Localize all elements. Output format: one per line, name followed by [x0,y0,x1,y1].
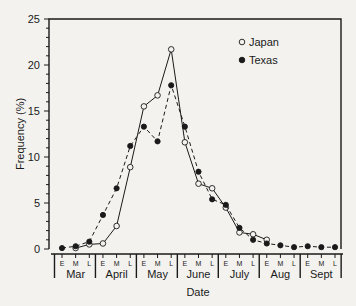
x-subperiod-label: E [223,260,228,267]
x-subperiod-label: M [114,260,120,267]
x-month-label: July [230,268,250,280]
line-chart: 0510152025 EMLEMLEMLEMLEMLEMLEMLMarApril… [0,0,356,306]
legend-label-texas: Texas [249,54,278,66]
data-point [319,245,324,250]
data-point [114,186,119,191]
data-point [100,212,105,217]
x-subperiod-label: M [237,260,243,267]
data-point [141,124,146,129]
data-point [127,164,133,170]
data-point [114,223,120,229]
data-point [100,241,106,247]
plot-frame [49,19,341,249]
x-month-label: Aug [271,268,291,280]
data-point [141,104,147,110]
x-subperiod-label: L [210,260,214,267]
y-tick-label: 10 [28,151,40,163]
y-axis-label: Frequency (%) [14,98,26,170]
data-point [223,202,228,207]
data-point [59,245,64,250]
x-subperiod-label: L [292,260,296,267]
x-month-label: June [187,268,211,280]
data-point [196,169,201,174]
x-subperiod-label: E [305,260,310,267]
data-point [291,245,296,250]
data-point [155,93,161,99]
data-point [196,181,202,187]
x-subperiod-label: M [277,260,283,267]
x-axis: EMLEMLEMLEMLEMLEMLEMLMarAprilMayJuneJuly… [51,254,343,280]
data-point [251,237,256,242]
y-tick-label: 15 [28,105,40,117]
data-point [210,197,215,202]
y-axis: 0510152025 [28,13,49,255]
data-point [209,185,215,191]
x-month-label: Sept [310,268,333,280]
legend-marker-texas [239,57,245,63]
x-subperiod-label: M [196,260,202,267]
data-point [278,243,283,248]
x-subperiod-label: L [251,260,255,267]
legend: JapanTexas [239,36,279,66]
series-japan [73,47,270,251]
x-subperiod-label: L [87,260,91,267]
x-subperiod-label: L [333,260,337,267]
data-point [182,139,188,145]
x-month-label: May [147,268,168,280]
x-subperiod-label: L [128,260,132,267]
x-subperiod-label: M [318,260,324,267]
data-point [250,231,256,237]
x-subperiod-label: E [142,260,147,267]
data-point [168,47,174,53]
data-point [155,139,160,144]
data-point [182,124,187,129]
y-tick-label: 5 [34,197,40,209]
data-point [128,143,133,148]
x-subperiod-label: E [101,260,106,267]
data-point [332,245,337,250]
data-point [305,244,310,249]
x-subperiod-label: E [264,260,269,267]
data-point [73,244,78,249]
y-tick-label: 25 [28,13,40,25]
data-point [87,239,92,244]
x-subperiod-label: M [73,260,79,267]
series-texas [59,83,337,251]
x-month-label: April [106,268,128,280]
x-subperiod-label: E [183,260,188,267]
x-month-label: Mar [66,268,85,280]
x-subperiod-label: M [155,260,161,267]
data-point [237,225,242,230]
y-tick-label: 20 [28,59,40,71]
legend-label-japan: Japan [249,36,279,48]
y-tick-label: 0 [34,243,40,255]
data-point [169,83,174,88]
legend-marker-japan [239,39,245,45]
data-point [264,241,269,246]
x-subperiod-label: L [169,260,173,267]
x-axis-label: Date [186,286,209,298]
x-subperiod-label: E [60,260,65,267]
data-series [59,47,337,251]
